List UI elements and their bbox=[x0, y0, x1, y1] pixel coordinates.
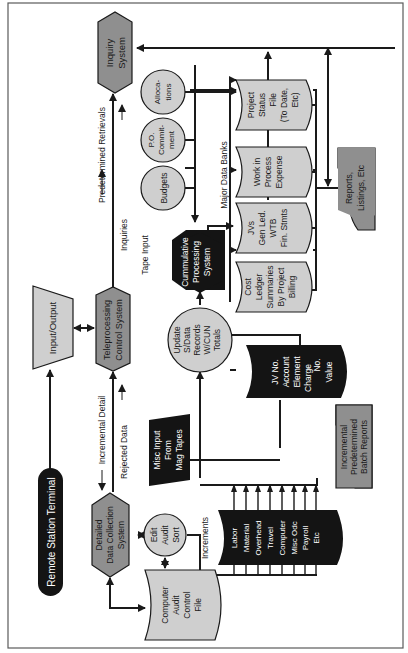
label-tape-input: Tape Input bbox=[140, 235, 150, 275]
svg-text:Misc Odc: Misc Odc bbox=[290, 521, 299, 554]
svg-text:WTB: WTB bbox=[268, 218, 278, 237]
svg-text:JVs: JVs bbox=[246, 221, 256, 235]
svg-text:Etc: Etc bbox=[312, 532, 321, 544]
svg-text:By Project: By Project bbox=[276, 267, 286, 306]
svg-text:Listings, Etc: Listings, Etc bbox=[356, 164, 366, 211]
svg-text:Audit: Audit bbox=[160, 525, 170, 545]
svg-text:Audit: Audit bbox=[171, 595, 181, 615]
po-commitment: P.O. Commit- ment bbox=[141, 118, 185, 162]
svg-text:Labor: Labor bbox=[230, 527, 239, 548]
svg-text:Control System: Control System bbox=[114, 299, 124, 361]
svg-text:Commit-: Commit- bbox=[157, 125, 166, 156]
svg-text:Cummulative: Cummulative bbox=[180, 237, 190, 287]
banks-output-bus bbox=[312, 105, 338, 290]
svg-text:System: System bbox=[202, 248, 212, 276]
bank-jvs-gen-ledger: JVs Gen Led. WTB Fin. Stmts bbox=[236, 203, 312, 253]
svg-text:Material: Material bbox=[242, 524, 251, 553]
svg-text:Predetermined: Predetermined bbox=[349, 419, 359, 475]
svg-text:Status: Status bbox=[257, 93, 267, 117]
computer-audit-control-file: Computer Audit Control File bbox=[145, 570, 221, 640]
svg-text:Records: Records bbox=[192, 324, 202, 356]
diagram-canvas: Remote Station Terminal Input/Output Tel… bbox=[0, 0, 408, 653]
bank-cost-ledger-summaries: Cost Ledger Summaries By Project Billing bbox=[236, 262, 312, 312]
svg-text:File: File bbox=[268, 93, 278, 107]
label-rejected-data: Rejected Data bbox=[119, 425, 129, 479]
svg-text:Cost: Cost bbox=[243, 278, 253, 296]
label-major-data-banks: Major Data Banks bbox=[219, 141, 229, 209]
svg-text:Misc Input: Misc Input bbox=[152, 430, 162, 469]
svg-text:Update: Update bbox=[172, 326, 182, 354]
jv-account-file: JV No. Account Element Charge No. Value bbox=[246, 345, 347, 398]
svg-text:Billing: Billing bbox=[287, 275, 297, 298]
svg-text:W/CUN: W/CUN bbox=[202, 326, 212, 355]
svg-text:Computer: Computer bbox=[160, 586, 170, 623]
svg-text:Edit: Edit bbox=[149, 527, 159, 542]
svg-text:System: System bbox=[116, 521, 126, 549]
svg-text:Process: Process bbox=[263, 157, 273, 188]
svg-text:JV No.: JV No. bbox=[270, 359, 280, 385]
svg-text:Payroll: Payroll bbox=[301, 526, 310, 551]
flow-diagram: Remote Station Terminal Input/Output Tel… bbox=[0, 0, 408, 653]
svg-text:Processing: Processing bbox=[191, 241, 201, 283]
svg-text:tions: tions bbox=[164, 84, 173, 101]
svg-text:Incremental: Incremental bbox=[339, 425, 349, 470]
budgets: Budgets bbox=[141, 166, 185, 210]
cumulative-processing-system: Cummulative Processing System bbox=[172, 230, 225, 293]
svg-text:Batch Reports: Batch Reports bbox=[359, 420, 369, 474]
svg-text:Input/Output: Input/Output bbox=[47, 302, 58, 355]
svg-text:Reports,: Reports, bbox=[344, 172, 354, 204]
inquiry-system: Inquiry System bbox=[98, 12, 132, 93]
svg-text:Project: Project bbox=[246, 91, 256, 118]
svg-text:System: System bbox=[116, 37, 127, 69]
svg-text:Sort: Sort bbox=[171, 527, 181, 543]
svg-text:(To Date,: (To Date, bbox=[279, 88, 289, 123]
svg-text:Teleprocessing: Teleprocessing bbox=[102, 300, 112, 360]
label-incremental-detail: Incremental Detail bbox=[97, 396, 107, 465]
update-sdata-records: Update S/Data Records W/CUN Totals bbox=[168, 308, 232, 372]
incremental-batch-reports: Incremental Predetermined Batch Reports bbox=[336, 405, 372, 488]
svg-text:Detailed: Detailed bbox=[94, 519, 104, 550]
increments-file: Increments Labor Material Overhead Trave… bbox=[200, 484, 343, 575]
label-inquiries: Inquiries bbox=[119, 219, 129, 251]
svg-text:Totals: Totals bbox=[212, 329, 222, 351]
svg-text:Gen Led.: Gen Led. bbox=[257, 211, 267, 246]
svg-text:Mag Tapes: Mag Tapes bbox=[174, 429, 184, 470]
input-output: Input/Output bbox=[33, 286, 73, 369]
svg-text:Overhead: Overhead bbox=[254, 520, 263, 555]
svg-text:S/Data: S/Data bbox=[182, 327, 192, 353]
misc-input-mag-tapes: Misc Input From Mag Tapes bbox=[149, 414, 190, 486]
edit-audit-sort: Edit Audit Sort bbox=[144, 514, 186, 556]
svg-text:Work in: Work in bbox=[252, 157, 262, 186]
bank-work-in-process: Work in Process Expense bbox=[236, 147, 312, 197]
svg-text:Summaries: Summaries bbox=[265, 266, 275, 309]
svg-text:From: From bbox=[163, 440, 173, 460]
svg-text:Ledger: Ledger bbox=[254, 274, 264, 301]
bank-project-status-file: Project Status File (To Date, Etc) bbox=[236, 80, 312, 130]
svg-text:Computer: Computer bbox=[278, 520, 287, 555]
svg-text:Control: Control bbox=[182, 591, 192, 619]
svg-text:Increments: Increments bbox=[200, 517, 210, 559]
svg-text:Remote Station Terminal: Remote Station Terminal bbox=[46, 477, 57, 586]
detailed-data-collection-system: Detailed Data Collection System bbox=[92, 493, 129, 577]
svg-text:Alloca-: Alloca- bbox=[153, 79, 162, 104]
svg-text:ment: ment bbox=[167, 130, 176, 149]
svg-text:Inquiry: Inquiry bbox=[104, 38, 115, 67]
svg-text:Budgets: Budgets bbox=[159, 172, 169, 203]
svg-text:No.: No. bbox=[312, 358, 322, 371]
remote-station-terminal: Remote Station Terminal bbox=[38, 468, 63, 596]
svg-text:File: File bbox=[193, 598, 203, 612]
svg-text:Etc): Etc) bbox=[290, 92, 300, 107]
svg-text:Element: Element bbox=[292, 356, 302, 388]
teleprocessing-control-system: Teleprocessing Control System bbox=[96, 287, 130, 371]
svg-text:P.O.: P.O. bbox=[147, 133, 156, 148]
svg-text:Travel: Travel bbox=[266, 527, 275, 549]
label-predetermined-retrievals: Predetermined Retrievals bbox=[97, 107, 107, 203]
allocations: Alloca- tions bbox=[141, 70, 185, 114]
svg-text:Expense: Expense bbox=[274, 155, 284, 188]
svg-text:Fin. Stmts: Fin. Stmts bbox=[279, 209, 289, 247]
svg-text:Value: Value bbox=[324, 361, 334, 382]
reports-listings: Reports, Listings, Etc bbox=[338, 148, 375, 230]
svg-text:Data Collection: Data Collection bbox=[105, 506, 115, 564]
svg-text:Account: Account bbox=[281, 356, 291, 387]
